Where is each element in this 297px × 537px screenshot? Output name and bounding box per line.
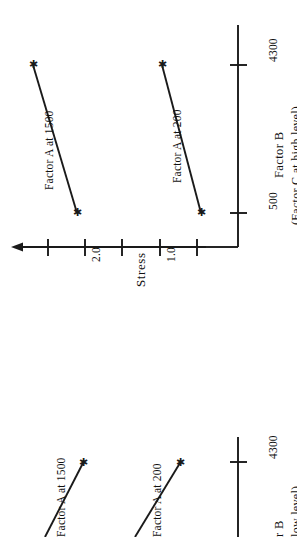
- plot-canvas: ✱ ✱ ✱ ✱ ✱ ✱: [0, 0, 297, 537]
- panel-high-value-axis-arrow: [11, 243, 23, 252]
- interaction-plot-figure: ✱ ✱ ✱ ✱ ✱ ✱ 4300 500 Factor B (Factor C …: [0, 0, 297, 537]
- panel-low-series-label-200: Factor A at 200: [152, 463, 164, 537]
- panel-low-axes: [230, 437, 247, 537]
- panel-low-series-label-1500: Factor A at 1500: [56, 457, 68, 537]
- panel-high-tick-label-4300: 4300: [268, 38, 280, 62]
- panel-low-marker-1500: ✱: [79, 456, 88, 468]
- panel-high-series-label-1500: Factor A at 1500: [44, 110, 56, 190]
- panel-high-marker-1500-a: ✱: [29, 58, 38, 70]
- panel-high-marker-200-a: ✱: [158, 58, 167, 70]
- panel-low-category-axis-subtitle: low level): [290, 486, 297, 537]
- panel-low-marker-200: ✱: [176, 456, 185, 468]
- panel-high-series-label-200: Factor A at 200: [172, 109, 184, 183]
- panel-high-value-tick-label-2: 2.0: [91, 247, 103, 262]
- panel-low-category-axis-title: r B: [273, 520, 286, 537]
- panel-high-marker-1500-b: ✱: [73, 206, 82, 218]
- panel-high-category-axis-subtitle: (Factor C at high level): [290, 106, 297, 225]
- panel-high-marker-200-b: ✱: [197, 206, 206, 218]
- panel-low-tick-label-4300: 4300: [268, 435, 280, 459]
- panel-high-category-axis-title: Factor B: [273, 131, 286, 178]
- panel-high-value-tick-label-1: 1.0: [166, 247, 178, 262]
- panel-high-tick-label-500: 500: [268, 192, 280, 210]
- panel-high-value-axis-title: Stress: [134, 252, 147, 287]
